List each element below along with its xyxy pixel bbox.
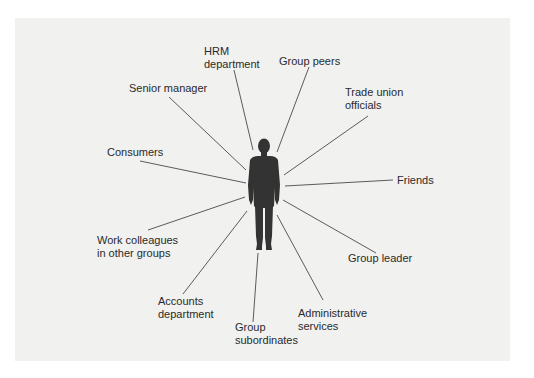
connector-group-subordinates bbox=[253, 253, 258, 322]
node-administrative: Administrative services bbox=[298, 307, 367, 333]
node-label-line1: Trade union bbox=[345, 86, 403, 99]
node-label-line1: Group peers bbox=[279, 55, 340, 68]
node-label-line2: department bbox=[204, 58, 260, 71]
node-label-line2: subordinates bbox=[235, 334, 298, 347]
node-work-colleagues: Work colleagues in other groups bbox=[97, 234, 178, 260]
connector-hrm bbox=[234, 70, 253, 150]
node-label-line1: Group bbox=[235, 321, 298, 334]
connector-work-colleagues bbox=[148, 197, 245, 230]
node-label-line2: services bbox=[298, 320, 367, 333]
connector-administrative bbox=[277, 215, 323, 300]
node-label-line1: Administrative bbox=[298, 307, 367, 320]
node-label-line2: department bbox=[158, 308, 214, 321]
node-friends: Friends bbox=[397, 174, 434, 187]
node-label-line1: Group leader bbox=[348, 252, 412, 265]
node-group-leader: Group leader bbox=[348, 252, 412, 265]
connector-consumers bbox=[140, 161, 246, 183]
connector-senior-manager bbox=[169, 97, 246, 170]
node-trade-union: Trade union officials bbox=[345, 86, 403, 112]
connector-accounts bbox=[183, 211, 247, 294]
connector-friends bbox=[285, 180, 393, 186]
node-label-line1: Senior manager bbox=[129, 82, 207, 95]
node-senior-manager: Senior manager bbox=[129, 82, 207, 95]
node-consumers: Consumers bbox=[107, 146, 163, 159]
connector-trade-union bbox=[284, 116, 368, 175]
node-label-line2: officials bbox=[345, 99, 403, 112]
node-label-line2: in other groups bbox=[97, 247, 178, 260]
node-group-peers: Group peers bbox=[279, 55, 340, 68]
node-label-line1: Consumers bbox=[107, 146, 163, 159]
node-accounts: Accounts department bbox=[158, 295, 214, 321]
person-silhouette-icon bbox=[248, 139, 280, 251]
connector-group-leader bbox=[283, 200, 376, 253]
node-label-line1: Accounts bbox=[158, 295, 214, 308]
node-label-line1: HRM bbox=[204, 45, 260, 58]
node-label-line1: Work colleagues bbox=[97, 234, 178, 247]
node-label-line1: Friends bbox=[397, 174, 434, 187]
node-hrm: HRM department bbox=[204, 45, 260, 71]
connector-group-peers bbox=[277, 67, 309, 152]
node-group-subordinates: Group subordinates bbox=[235, 321, 298, 347]
